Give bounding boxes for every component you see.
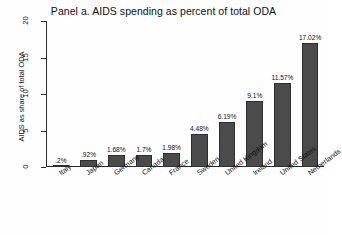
y-axis-tick-label: 0 bbox=[21, 154, 30, 180]
y-axis-tick-label: 15 bbox=[21, 44, 30, 70]
bar bbox=[219, 122, 236, 167]
bar-value-label: 6.19% bbox=[213, 113, 242, 120]
bar-value-label: 9.1% bbox=[240, 92, 269, 99]
bar-value-label: .2% bbox=[46, 157, 75, 164]
bar-value-label: .92% bbox=[74, 151, 103, 158]
y-axis-tick bbox=[41, 94, 46, 95]
bar-value-label: 4.48% bbox=[185, 125, 214, 132]
bar-value-label: 11.57% bbox=[268, 74, 297, 81]
y-axis-tick bbox=[41, 21, 46, 22]
y-axis-tick-label: 20 bbox=[21, 8, 30, 34]
bar bbox=[274, 83, 291, 167]
y-axis-tick bbox=[41, 58, 46, 59]
y-axis-tick bbox=[41, 131, 46, 132]
bar-value-label: 1.7% bbox=[130, 146, 159, 153]
y-axis-tick-label: 5 bbox=[21, 117, 30, 143]
chart-title: Panel a. AIDS spending as percent of tot… bbox=[0, 5, 327, 17]
bar-value-label: 1.98% bbox=[157, 144, 186, 151]
bar-value-label: 1.68% bbox=[102, 146, 131, 153]
category-labels-layer: ItalyJapanGermanyCanadaFranceSwedenUnite… bbox=[47, 168, 324, 232]
y-axis-tick bbox=[41, 167, 46, 168]
bars-layer: .2%.92%1.68%1.7%1.98%4.48%6.19%9.1%11.57… bbox=[47, 21, 324, 167]
y-axis-tick-label: 10 bbox=[21, 81, 30, 107]
bar-value-label: 17.02% bbox=[296, 34, 325, 41]
